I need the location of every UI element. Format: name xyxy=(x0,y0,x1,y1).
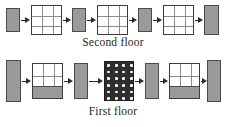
arrow-s2 xyxy=(63,17,71,24)
arrow-head-icon xyxy=(66,17,71,23)
arrow-head-icon xyxy=(25,17,30,23)
arrow-f3 xyxy=(89,78,103,85)
pattern-dot xyxy=(130,77,133,80)
arrow-head-icon xyxy=(198,17,203,23)
grid-line-vertical xyxy=(174,6,175,34)
pattern-dot xyxy=(107,77,110,80)
grid-line-horizontal xyxy=(170,76,199,77)
grid-line-horizontal xyxy=(164,26,193,27)
wall-f1 xyxy=(6,60,21,102)
figure-canvas: Second floor First floor xyxy=(0,0,226,127)
grid-line-vertical xyxy=(185,6,186,34)
pattern-dot xyxy=(130,97,133,100)
pattern-dot xyxy=(115,64,118,67)
wall-f4 xyxy=(207,60,221,102)
grid-line-horizontal xyxy=(32,26,61,27)
arrow-f6 xyxy=(201,78,207,85)
panel-s1 xyxy=(31,5,62,35)
panel-filled-section xyxy=(170,86,199,98)
grid-line-horizontal xyxy=(164,16,193,17)
wall-s4 xyxy=(204,5,219,35)
pattern-dot xyxy=(122,97,125,100)
pattern-dot xyxy=(115,71,118,74)
panel-f1 xyxy=(32,63,63,99)
grid-line-vertical xyxy=(53,6,54,34)
grid-line-vertical xyxy=(42,6,43,34)
wall-s2 xyxy=(72,8,86,32)
arrow-head-icon xyxy=(132,17,137,23)
pattern-dot xyxy=(122,77,125,80)
arrow-shaft xyxy=(89,81,98,82)
caption-first-floor: First floor xyxy=(0,105,226,117)
arrow-s6 xyxy=(195,17,203,24)
grid-line-vertical xyxy=(119,6,120,34)
arrow-head-icon xyxy=(26,78,31,84)
caption-second-floor: Second floor xyxy=(0,36,226,48)
arrow-head-icon xyxy=(98,78,103,84)
arrow-head-icon xyxy=(163,78,168,84)
pattern-dot xyxy=(130,91,133,94)
panel-s3 xyxy=(163,5,194,35)
panel-filled-section xyxy=(33,86,62,98)
arrow-head-icon xyxy=(157,17,162,23)
pattern-dot xyxy=(107,91,110,94)
pattern-dot xyxy=(115,84,118,87)
arrow-head-icon xyxy=(139,78,144,84)
wall-s1 xyxy=(6,8,20,32)
arrow-f5 xyxy=(160,78,168,85)
panel-f2 xyxy=(104,61,134,101)
arrow-s4 xyxy=(129,17,137,24)
panel-f3 xyxy=(169,63,200,99)
wall-f2 xyxy=(74,63,88,99)
pattern-dot xyxy=(122,84,125,87)
wall-s3 xyxy=(138,8,152,32)
pattern-dot xyxy=(107,71,110,74)
pattern-dot xyxy=(107,64,110,67)
arrow-f2 xyxy=(64,78,73,85)
pattern-dot xyxy=(130,71,133,74)
panel-s2 xyxy=(97,5,128,35)
arrow-s1 xyxy=(21,17,30,24)
grid-line-horizontal xyxy=(32,16,61,17)
pattern-dot xyxy=(130,84,133,87)
arrow-s5 xyxy=(153,17,162,24)
pattern-dot xyxy=(130,64,133,67)
grid-line-vertical xyxy=(108,6,109,34)
arrow-s3 xyxy=(87,17,96,24)
grid-line-horizontal xyxy=(33,76,62,77)
pattern-dot xyxy=(115,97,118,100)
arrow-head-icon xyxy=(202,78,207,84)
pattern-dot xyxy=(115,77,118,80)
pattern-dot xyxy=(122,64,125,67)
pattern-dot xyxy=(107,84,110,87)
arrow-head-icon xyxy=(68,78,73,84)
grid-line-horizontal xyxy=(98,16,127,17)
arrow-f1 xyxy=(22,78,31,85)
pattern-dot xyxy=(115,91,118,94)
arrow-f4 xyxy=(135,78,144,85)
wall-f3 xyxy=(145,63,159,99)
pattern-dot xyxy=(122,91,125,94)
grid-line-horizontal xyxy=(98,26,127,27)
arrow-head-icon xyxy=(91,17,96,23)
pattern-dot xyxy=(122,71,125,74)
pattern-dot xyxy=(107,97,110,100)
